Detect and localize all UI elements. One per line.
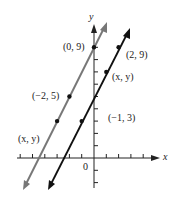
label-neg2-5: (−2, 5) bbox=[32, 91, 59, 101]
label-neg1-3: (−1, 3) bbox=[108, 113, 135, 123]
point-neg2-5 bbox=[67, 94, 71, 98]
origin-label: 0 bbox=[83, 162, 88, 172]
point-neg1-3 bbox=[80, 119, 84, 123]
label-xy-black: (x, y) bbox=[112, 72, 134, 82]
label-0-9: (0, 9) bbox=[63, 42, 85, 52]
graph: y x 0 (0, 9) (−2, 5) (x, y) (2, 9) (x, y… bbox=[0, 0, 175, 199]
point-0-9 bbox=[92, 45, 96, 49]
x-axis-label: x bbox=[163, 152, 167, 162]
label-xy-gray: (x, y) bbox=[18, 134, 40, 144]
point-2-9 bbox=[116, 45, 120, 49]
black-line bbox=[48, 28, 130, 190]
label-2-9: (2, 9) bbox=[126, 50, 148, 60]
point-xy-black bbox=[104, 70, 108, 74]
y-axis-label: y bbox=[89, 12, 93, 22]
point-xy-gray bbox=[55, 119, 59, 123]
